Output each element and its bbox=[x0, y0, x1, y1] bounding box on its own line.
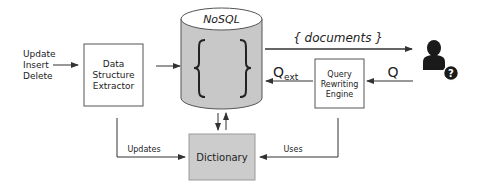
uses-label: Uses bbox=[283, 145, 302, 154]
documents-label: { documents } bbox=[293, 31, 383, 45]
svg-text:Rewriting: Rewriting bbox=[321, 80, 359, 89]
svg-text:Structure: Structure bbox=[93, 70, 135, 80]
architecture-diagram: Update Insert Delete Data Structure Extr… bbox=[0, 0, 479, 187]
svg-text:Data: Data bbox=[103, 59, 125, 69]
nosql-label: NoSQL bbox=[203, 13, 240, 26]
data-structure-extractor-box: Data Structure Extractor bbox=[84, 44, 143, 106]
svg-text:Dictionary: Dictionary bbox=[196, 152, 247, 163]
qext-label: Qext bbox=[273, 64, 299, 82]
svg-text:Extractor: Extractor bbox=[93, 81, 135, 91]
dictionary-box: Dictionary bbox=[189, 134, 255, 180]
op-update: Update bbox=[23, 49, 56, 59]
user-question-icon: ? bbox=[423, 40, 459, 81]
input-operations: Update Insert Delete bbox=[23, 49, 56, 81]
svg-text:Query: Query bbox=[327, 70, 352, 79]
query-rewriting-engine-box: Query Rewriting Engine bbox=[315, 59, 364, 108]
op-delete: Delete bbox=[23, 71, 53, 81]
question-badge: ? bbox=[448, 68, 454, 79]
q-label: Q bbox=[387, 64, 398, 80]
op-insert: Insert bbox=[23, 60, 49, 70]
svg-text:Engine: Engine bbox=[326, 90, 353, 99]
nosql-database-cylinder: NoSQL bbox=[181, 8, 262, 109]
updates-label: Updates bbox=[127, 145, 160, 154]
